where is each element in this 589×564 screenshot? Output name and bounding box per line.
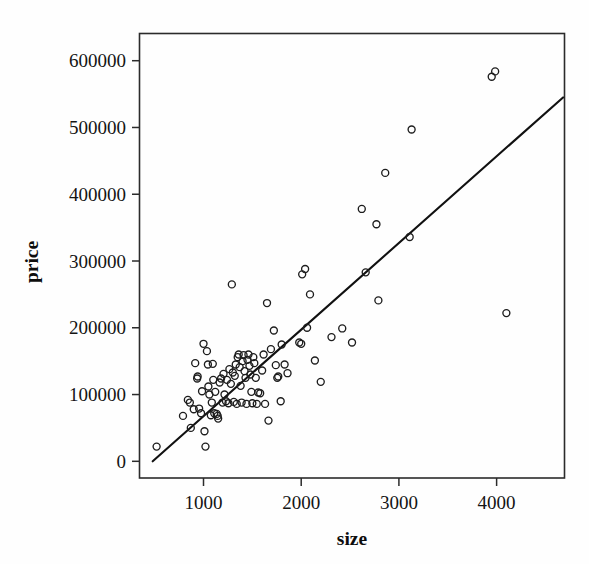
- data-point: [203, 348, 210, 355]
- data-point: [298, 340, 305, 347]
- data-point: [253, 400, 260, 407]
- data-point: [358, 205, 365, 212]
- plot-canvas: 0100000200000300000400000500000600000 10…: [0, 0, 589, 564]
- x-tick-label: 1000: [185, 492, 223, 513]
- data-point: [373, 221, 380, 228]
- x-tick-label: 2000: [282, 492, 320, 513]
- y-tick-label: 500000: [69, 117, 126, 138]
- data-point: [503, 310, 510, 317]
- y-tick-label: 200000: [69, 317, 126, 338]
- data-point: [202, 443, 209, 450]
- x-tick-label: 3000: [380, 492, 418, 513]
- y-axis-ticks: 0100000200000300000400000500000600000: [69, 50, 140, 472]
- data-point: [317, 378, 324, 385]
- data-point: [382, 169, 389, 176]
- data-point: [260, 351, 267, 358]
- data-point: [201, 428, 208, 435]
- data-point: [339, 325, 346, 332]
- data-points-layer: [153, 68, 510, 450]
- data-point: [270, 327, 277, 334]
- regression-line: [153, 97, 563, 461]
- data-point: [264, 300, 271, 307]
- x-axis-title: size: [337, 528, 368, 549]
- y-tick-label: 0: [117, 451, 127, 472]
- data-point: [375, 297, 382, 304]
- data-point: [262, 400, 269, 407]
- data-point: [192, 360, 199, 367]
- data-point: [328, 334, 335, 341]
- data-point: [199, 388, 206, 395]
- y-axis-title: price: [21, 241, 42, 284]
- data-point: [307, 291, 314, 298]
- data-point: [208, 399, 215, 406]
- y-tick-label: 100000: [69, 384, 126, 405]
- data-point: [408, 126, 415, 133]
- data-point: [205, 383, 212, 390]
- y-tick-label: 600000: [69, 50, 126, 71]
- scatterplot-figure: 0100000200000300000400000500000600000 10…: [0, 0, 589, 564]
- data-point: [228, 281, 235, 288]
- data-point: [238, 399, 245, 406]
- regression-line-layer: [153, 97, 563, 461]
- data-point: [252, 374, 259, 381]
- data-point: [227, 380, 234, 387]
- data-point: [272, 362, 279, 369]
- x-tick-label: 4000: [478, 492, 516, 513]
- data-point: [248, 388, 255, 395]
- x-axis-ticks: 1000200030004000: [185, 478, 516, 513]
- data-point: [311, 357, 318, 364]
- data-point: [179, 412, 186, 419]
- data-point: [265, 417, 272, 424]
- data-point: [153, 443, 160, 450]
- data-point: [281, 361, 288, 368]
- data-point: [200, 340, 207, 347]
- data-point: [267, 346, 274, 353]
- data-point: [492, 68, 499, 75]
- data-point: [349, 339, 356, 346]
- data-point: [284, 370, 291, 377]
- data-point: [277, 398, 284, 405]
- data-point: [209, 360, 216, 367]
- y-tick-label: 300000: [69, 251, 126, 272]
- y-tick-label: 400000: [69, 184, 126, 205]
- data-point: [259, 367, 266, 374]
- data-point: [212, 388, 219, 395]
